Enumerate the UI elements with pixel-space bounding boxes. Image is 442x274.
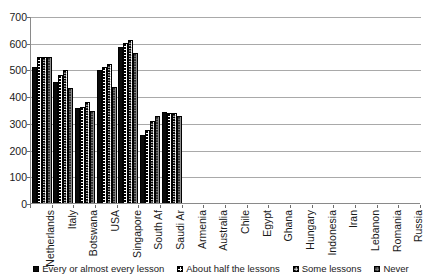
- x-axis-category-label: Botswana: [88, 210, 99, 256]
- y-axis-tick-label: 500: [1, 65, 27, 75]
- bar-group: [226, 16, 248, 203]
- x-axis-tick-mark: [268, 205, 269, 208]
- legend-label: Never: [383, 264, 408, 274]
- x-axis-tick-mark: [203, 205, 204, 208]
- legend-label: Every or almost every lesson: [42, 264, 164, 274]
- x-axis-category-label: Australia: [218, 210, 229, 251]
- x-axis-tick-mark: [377, 205, 378, 208]
- bar-group: [74, 16, 96, 203]
- legend-entry: Every or almost every lesson: [33, 264, 164, 274]
- y-axis-tick-label: 300: [1, 119, 27, 129]
- bar-group: [31, 16, 53, 203]
- legend-entry: Never: [374, 264, 408, 274]
- x-axis-tick-mark: [290, 205, 291, 208]
- x-axis-category-label: Armenia: [197, 210, 208, 249]
- x-axis-tick-mark: [333, 205, 334, 208]
- legend-label: About half the lessons: [186, 264, 279, 274]
- x-axis-category-label: Saudi Ar: [175, 210, 186, 250]
- x-axis-category-label: Russia: [413, 210, 424, 242]
- legend-swatch: [33, 266, 39, 272]
- bar: [133, 53, 138, 203]
- chart-legend: Every or almost every lessonAbout half t…: [0, 264, 442, 274]
- bar-group: [334, 16, 356, 203]
- x-axis-tick-mark: [225, 205, 226, 208]
- x-axis-tick-mark: [73, 205, 74, 208]
- x-axis-category-label: Singapore: [132, 210, 143, 258]
- legend-entry: About half the lessons: [177, 264, 279, 274]
- bar-group: [313, 16, 335, 203]
- bar: [90, 111, 95, 203]
- bar: [112, 87, 117, 203]
- y-axis-tick-label: 200: [1, 146, 27, 156]
- x-axis-tick-mark: [52, 205, 53, 208]
- x-axis-tick-mark: [182, 205, 183, 208]
- legend-label: Some lessons: [302, 264, 362, 274]
- x-axis-tick-mark: [95, 205, 96, 208]
- x-axis-tick-mark: [117, 205, 118, 208]
- bar-group: [53, 16, 75, 203]
- y-axis-tick-label: 0: [1, 199, 27, 209]
- y-axis-tick-label: 600: [1, 39, 27, 49]
- x-axis-category-label: Ghana: [283, 210, 294, 242]
- legend-swatch: [293, 266, 299, 272]
- x-axis: NetherlandsItalyBotswanaUSASingaporeSout…: [30, 205, 420, 255]
- bar-chart: 0100200300400500600700 NetherlandsItalyB…: [0, 0, 442, 274]
- bar-group: [118, 16, 140, 203]
- x-axis-tick-mark: [355, 205, 356, 208]
- bar: [47, 57, 52, 203]
- x-axis-category-label: USA: [110, 210, 121, 232]
- x-axis-category-label: Egypt: [262, 210, 273, 237]
- bar: [68, 88, 73, 203]
- x-axis-category-label: Romania: [392, 210, 403, 252]
- legend-swatch: [374, 266, 380, 272]
- x-axis-tick-mark: [30, 205, 31, 208]
- bar-group: [139, 16, 161, 203]
- x-axis-category-label: Indonesia: [327, 210, 338, 256]
- bar-group: [356, 16, 378, 203]
- bar-group: [399, 16, 421, 203]
- x-axis-tick-mark: [420, 205, 421, 208]
- x-axis-category-label: South Af: [153, 210, 164, 250]
- bar-group: [378, 16, 400, 203]
- x-axis-tick-mark: [312, 205, 313, 208]
- legend-entry: Some lessons: [293, 264, 362, 274]
- y-axis-tick-label: 700: [1, 12, 27, 22]
- bar-group: [161, 16, 183, 203]
- legend-swatch: [177, 266, 183, 272]
- plot-area: [30, 17, 420, 204]
- x-axis-tick-mark: [160, 205, 161, 208]
- x-axis-category-label: Iran: [348, 210, 359, 228]
- y-axis: 0100200300400500600700: [0, 17, 27, 205]
- x-axis-category-label: Italy: [67, 210, 78, 229]
- x-axis-tick-mark: [247, 205, 248, 208]
- bar-group: [204, 16, 226, 203]
- y-axis-tick-label: 100: [1, 172, 27, 182]
- x-axis-tick-mark: [138, 205, 139, 208]
- bar-group: [291, 16, 313, 203]
- bar-group: [96, 16, 118, 203]
- x-axis-tick-mark: [398, 205, 399, 208]
- y-axis-tick-label: 400: [1, 92, 27, 102]
- bar: [155, 116, 160, 203]
- x-axis-category-label: Netherlands: [45, 210, 56, 267]
- bar-group: [248, 16, 270, 203]
- bar: [177, 116, 182, 203]
- bar-group: [183, 16, 205, 203]
- x-axis-category-label: Chile: [240, 210, 251, 234]
- x-axis-category-label: Lebanon: [370, 210, 381, 251]
- x-axis-category-label: Hungary: [305, 210, 316, 250]
- bar-group: [269, 16, 291, 203]
